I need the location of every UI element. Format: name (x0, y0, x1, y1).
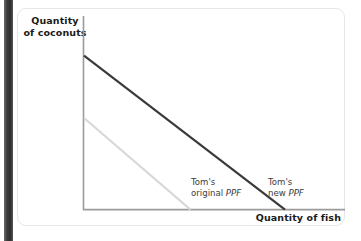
plot-area: Quantity of coconuts Tom'soriginal PPF T… (18, 9, 346, 227)
original-ppf-label: Tom'soriginal PPF (191, 177, 261, 198)
ppf-figure: Quantity of coconuts Tom'soriginal PPF T… (0, 0, 361, 241)
original-ppf-line (84, 118, 191, 210)
original-ppf-label-text: Tom'soriginal PPF (191, 177, 241, 198)
x-axis-label: Quantity of fish (201, 212, 341, 224)
new-ppf-label-text: Tom'snew PPF (268, 177, 304, 198)
new-ppf-label: Tom'snew PPF (268, 177, 330, 198)
page-gutter-bar (4, 0, 13, 241)
figure-card: Quantity of coconuts Tom'soriginal PPF T… (17, 8, 345, 226)
